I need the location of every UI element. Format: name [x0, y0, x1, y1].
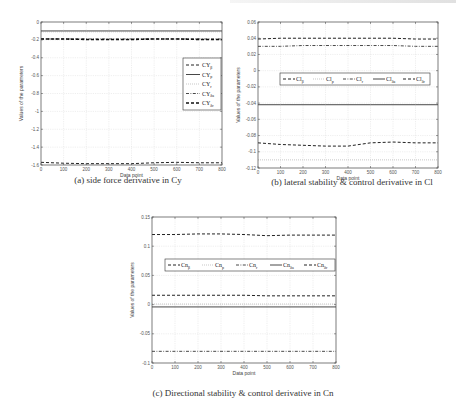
caption-c: (c) Directional stability & control deri… [143, 388, 343, 398]
legend: CnβCnpCnrCnδaCnδr [165, 259, 335, 271]
x-tick-label: 700 [309, 365, 317, 370]
x-tick-label: 600 [286, 365, 294, 370]
y-tick-label: 0 [147, 302, 150, 307]
y-tick-label: -0.05 [140, 331, 151, 336]
plot-svg: 01002003004005006007008000.150.10.050-0.… [0, 0, 456, 411]
x-tick-label: 500 [263, 365, 271, 370]
x-tick-label: 200 [194, 365, 202, 370]
y-tick-label: 0.05 [141, 273, 150, 278]
y-tick-label: 0.1 [144, 244, 151, 249]
y-tick-label: -0.1 [142, 361, 150, 366]
y-axis-label: Values of the parameters [129, 262, 135, 318]
x-tick-label: 100 [171, 365, 179, 370]
x-axis-label: Data point [233, 370, 256, 376]
series-line [152, 295, 336, 296]
x-tick-label: 800 [332, 365, 340, 370]
x-tick-label: 300 [217, 365, 225, 370]
y-tick-label: 0.15 [141, 215, 150, 220]
x-tick-label: 0 [151, 365, 154, 370]
